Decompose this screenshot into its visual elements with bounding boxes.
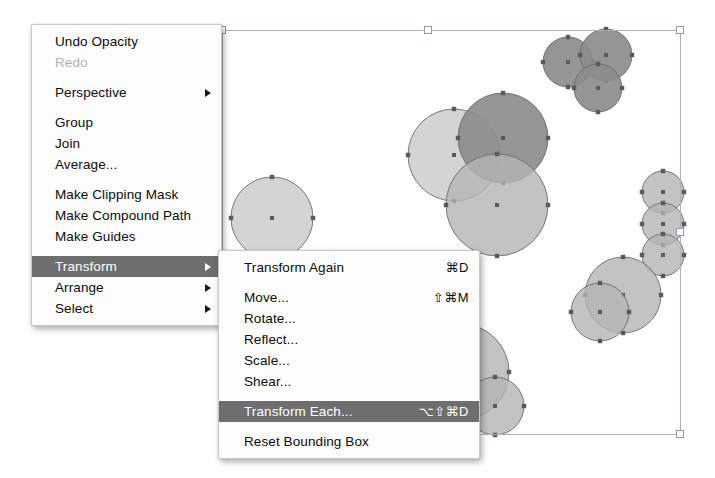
anchor-point[interactable] bbox=[546, 203, 550, 207]
anchor-point[interactable] bbox=[640, 253, 644, 257]
menu-item-label: Join bbox=[55, 136, 80, 151]
anchor-point[interactable] bbox=[596, 62, 600, 66]
anchor-point[interactable] bbox=[452, 107, 456, 111]
center-point[interactable] bbox=[596, 86, 600, 90]
menu-item-make-clipping-mask[interactable]: Make Clipping Mask bbox=[32, 184, 221, 205]
menu-item-label: Arrange bbox=[55, 280, 104, 295]
center-point[interactable] bbox=[270, 216, 274, 220]
anchor-point[interactable] bbox=[569, 310, 573, 314]
submenu-item-rotate[interactable]: Rotate... bbox=[219, 308, 479, 329]
submenu-item-move[interactable]: Move... ⇧⌘M bbox=[219, 287, 479, 308]
menu-item-select[interactable]: Select bbox=[32, 298, 221, 319]
center-point[interactable] bbox=[661, 190, 665, 194]
submenu-item-transform-each[interactable]: Transform Each... ⌥⇧⌘D bbox=[219, 401, 479, 422]
menu-item-label: Group bbox=[55, 115, 93, 130]
submenu-item-label: Transform Each... bbox=[244, 404, 352, 419]
center-point[interactable] bbox=[501, 136, 505, 140]
anchor-point[interactable] bbox=[541, 60, 545, 64]
menu-item-label: Redo bbox=[55, 55, 88, 70]
submenu-item-reset-bounding-box[interactable]: Reset Bounding Box bbox=[219, 431, 479, 452]
chevron-right-icon bbox=[205, 284, 211, 292]
anchor-point[interactable] bbox=[661, 169, 665, 173]
anchor-point[interactable] bbox=[621, 255, 625, 259]
anchor-point[interactable] bbox=[566, 35, 570, 39]
anchor-point[interactable] bbox=[640, 222, 644, 226]
object-menu[interactable]: Undo Opacity Redo Perspective Group Join… bbox=[31, 24, 222, 326]
anchor-point[interactable] bbox=[501, 91, 505, 95]
anchor-point[interactable] bbox=[311, 216, 315, 220]
center-point[interactable] bbox=[661, 222, 665, 226]
anchor-point[interactable] bbox=[495, 152, 499, 156]
submenu-item-label: Reflect... bbox=[244, 332, 298, 347]
submenu-item-label: Scale... bbox=[244, 353, 290, 368]
anchor-point[interactable] bbox=[682, 222, 686, 226]
anchor-point[interactable] bbox=[444, 203, 448, 207]
submenu-item-transform-again[interactable]: Transform Again ⌘D bbox=[219, 257, 479, 278]
anchor-point[interactable] bbox=[661, 201, 665, 205]
anchor-point[interactable] bbox=[598, 339, 602, 343]
anchor-point[interactable] bbox=[522, 404, 526, 408]
center-point[interactable] bbox=[452, 153, 456, 157]
submenu-item-reflect[interactable]: Reflect... bbox=[219, 329, 479, 350]
menu-item-label: Perspective bbox=[55, 85, 127, 100]
anchor-point[interactable] bbox=[493, 375, 497, 379]
transform-submenu[interactable]: Transform Again ⌘D Move... ⇧⌘M Rotate...… bbox=[218, 250, 480, 459]
anchor-point[interactable] bbox=[495, 254, 499, 258]
anchor-point[interactable] bbox=[406, 153, 410, 157]
chevron-right-icon bbox=[205, 89, 211, 97]
submenu-item-label: Move... bbox=[244, 290, 289, 305]
submenu-item-shortcut: ⌥⇧⌘D bbox=[401, 404, 469, 419]
anchor-point[interactable] bbox=[640, 190, 644, 194]
selection-handle[interactable] bbox=[677, 229, 684, 236]
center-point[interactable] bbox=[566, 60, 570, 64]
anchor-point[interactable] bbox=[566, 85, 570, 89]
menu-item-transform[interactable]: Transform bbox=[32, 256, 221, 277]
anchor-point[interactable] bbox=[682, 190, 686, 194]
anchor-point[interactable] bbox=[682, 253, 686, 257]
selection-handle[interactable] bbox=[677, 27, 684, 34]
illustrator-screen: Undo Opacity Redo Perspective Group Join… bbox=[0, 0, 715, 478]
menu-item-arrange[interactable]: Arrange bbox=[32, 277, 221, 298]
submenu-item-label: Transform Again bbox=[244, 260, 344, 275]
selection-handle[interactable] bbox=[677, 431, 684, 438]
menu-item-make-compound-path[interactable]: Make Compound Path bbox=[32, 205, 221, 226]
submenu-item-shortcut: ⌘D bbox=[428, 260, 469, 275]
menu-item-average[interactable]: Average... bbox=[32, 154, 221, 175]
anchor-point[interactable] bbox=[630, 53, 634, 57]
anchor-point[interactable] bbox=[507, 370, 511, 374]
anchor-point[interactable] bbox=[229, 216, 233, 220]
menu-item-label: Make Guides bbox=[55, 229, 136, 244]
anchor-point[interactable] bbox=[596, 110, 600, 114]
center-point[interactable] bbox=[604, 53, 608, 57]
anchor-point[interactable] bbox=[598, 281, 602, 285]
center-point[interactable] bbox=[598, 310, 602, 314]
submenu-item-scale[interactable]: Scale... bbox=[219, 350, 479, 371]
anchor-point[interactable] bbox=[661, 232, 665, 236]
submenu-item-shear[interactable]: Shear... bbox=[219, 371, 479, 392]
center-point[interactable] bbox=[495, 203, 499, 207]
menu-item-make-guides[interactable]: Make Guides bbox=[32, 226, 221, 247]
menu-separator-gap bbox=[32, 175, 221, 184]
menu-item-undo-opacity[interactable]: Undo Opacity bbox=[32, 31, 221, 52]
anchor-point[interactable] bbox=[546, 136, 550, 140]
submenu-item-label: Shear... bbox=[244, 374, 291, 389]
anchor-point[interactable] bbox=[270, 175, 274, 179]
anchor-point[interactable] bbox=[661, 274, 665, 278]
menu-item-group[interactable]: Group bbox=[32, 112, 221, 133]
center-point[interactable] bbox=[493, 404, 497, 408]
menu-item-perspective[interactable]: Perspective bbox=[32, 82, 221, 103]
menu-item-label: Make Compound Path bbox=[55, 208, 191, 223]
anchor-point[interactable] bbox=[627, 310, 631, 314]
anchor-point[interactable] bbox=[456, 136, 460, 140]
submenu-item-label: Reset Bounding Box bbox=[244, 434, 369, 449]
anchor-point[interactable] bbox=[659, 293, 663, 297]
anchor-point[interactable] bbox=[572, 86, 576, 90]
anchor-point[interactable] bbox=[620, 86, 624, 90]
anchor-point[interactable] bbox=[578, 53, 582, 57]
center-point[interactable] bbox=[661, 253, 665, 257]
menu-item-join[interactable]: Join bbox=[32, 133, 221, 154]
circle-object[interactable] bbox=[229, 175, 315, 261]
selection-handle[interactable] bbox=[425, 27, 432, 34]
menu-separator-gap bbox=[32, 103, 221, 112]
submenu-separator-gap bbox=[219, 392, 479, 401]
